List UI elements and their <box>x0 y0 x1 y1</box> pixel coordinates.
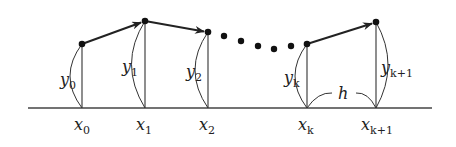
y-labels: y0 y1 y2 yk yk+1 <box>59 57 413 92</box>
svg-text:xk: xk <box>298 115 314 137</box>
euler-arrows <box>82 21 372 44</box>
svg-text:x2: x2 <box>199 115 215 137</box>
svg-text:yk: yk <box>283 68 300 90</box>
solution-points <box>79 18 380 48</box>
svg-text:y0: y0 <box>59 70 76 92</box>
euler-method-diagram: h y0 y1 y2 yk yk+1 x0 x1 x2 xk xk+1 <box>0 0 456 147</box>
x-labels: x0 x1 x2 xk xk+1 <box>74 115 393 137</box>
svg-text:x1: x1 <box>136 115 152 137</box>
ellipsis-dots <box>221 33 294 52</box>
svg-text:xk+1: xk+1 <box>361 115 393 137</box>
svg-text:x0: x0 <box>74 115 90 137</box>
step-label: h <box>338 84 348 103</box>
svg-text:y1: y1 <box>121 57 138 79</box>
svg-text:yk+1: yk+1 <box>380 58 413 80</box>
svg-text:y2: y2 <box>185 62 202 84</box>
